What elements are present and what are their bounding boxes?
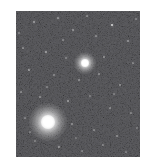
background-noise <box>16 11 140 157</box>
astronomy-image-page <box>0 0 149 165</box>
sky-field <box>16 11 140 157</box>
